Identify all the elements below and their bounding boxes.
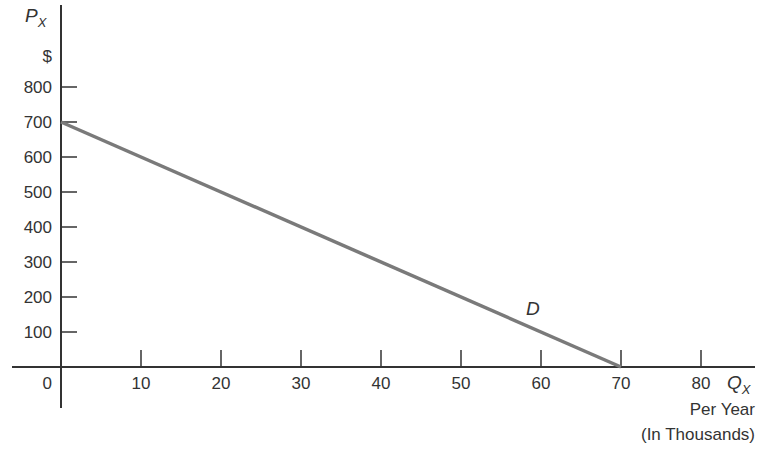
y-tick-label: 600: [24, 148, 52, 167]
x-tick-label: 10: [132, 374, 151, 393]
y-axis-title: PX: [25, 5, 48, 30]
x-ticks: 1020304050607080: [132, 350, 711, 393]
y-tick-label: 800: [24, 78, 52, 97]
x-axis-title: QX: [727, 372, 752, 397]
demand-curve: [61, 122, 621, 367]
x-unit-line1: Per Year: [690, 400, 756, 419]
x-unit-line2: (In Thousands): [641, 425, 755, 444]
y-tick-label: 400: [24, 218, 52, 237]
x-tick-label: 30: [292, 374, 311, 393]
y-ticks: 100200300400500600700800: [24, 78, 77, 342]
x-tick-label: 40: [372, 374, 391, 393]
x-tick-label: 70: [612, 374, 631, 393]
demand-chart: 100200300400500600700800 102030405060708…: [0, 0, 765, 461]
x-tick-label: 60: [532, 374, 551, 393]
x-tick-label: 80: [692, 374, 711, 393]
origin-label: 0: [43, 374, 52, 393]
y-tick-label: 500: [24, 183, 52, 202]
y-tick-label: 700: [24, 113, 52, 132]
y-tick-label: 200: [24, 288, 52, 307]
x-tick-label: 20: [212, 374, 231, 393]
x-tick-label: 50: [452, 374, 471, 393]
y-unit-label: $: [43, 47, 53, 66]
y-tick-label: 100: [24, 323, 52, 342]
y-tick-label: 300: [24, 253, 52, 272]
curve-label: D: [526, 298, 540, 319]
